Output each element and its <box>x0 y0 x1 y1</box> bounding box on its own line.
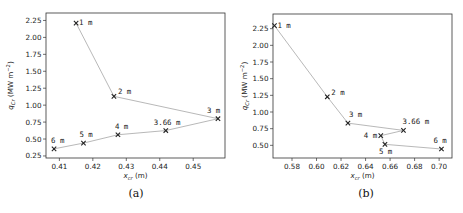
caption-b: (b) <box>358 187 374 200</box>
point-label: 2 m <box>118 87 132 96</box>
x-tick-label: 0.58 <box>284 162 300 171</box>
x-tick-label: 0.45 <box>185 162 201 171</box>
point-label: 5 m <box>79 130 93 139</box>
x-tick-label: 0.44 <box>152 162 168 171</box>
point-label: 3.66 m <box>154 118 181 127</box>
y-axis-label: qCr (MW m−2) <box>5 61 16 110</box>
point-label: 1 m <box>79 18 93 27</box>
x-axis-label: xcr (m) <box>122 171 147 181</box>
y-tick-label: 0.50 <box>252 141 268 150</box>
x-marker-icon <box>325 95 329 99</box>
x-tick-label: 0.66 <box>382 162 398 171</box>
y-tick-label: 2.25 <box>25 16 41 25</box>
y-tick-label: 0.25 <box>25 151 41 160</box>
y-tick-label: 1.25 <box>25 84 41 93</box>
caption-a: (a) <box>128 187 143 200</box>
plot-frame <box>46 13 225 158</box>
plot-frame <box>273 14 452 158</box>
y-axis-label: qCr (MW m−2) <box>239 62 250 111</box>
y-tick-label: 1.25 <box>252 91 268 100</box>
figure: 0.410.420.430.440.450.250.500.751.001.25… <box>0 0 463 213</box>
chart-panel-a: 0.410.420.430.440.450.250.500.751.001.25… <box>5 13 225 181</box>
y-tick-label: 1.75 <box>25 50 41 59</box>
point-label: 6 m <box>433 136 447 145</box>
chart-panel-b: 0.580.600.620.640.660.680.700.500.751.00… <box>239 14 452 181</box>
y-tick-label: 0.50 <box>25 135 41 144</box>
point-label: 2 m <box>331 88 345 97</box>
point-label: 1 m <box>277 21 291 30</box>
x-axis-label: xcr (m) <box>349 171 374 181</box>
point-label: 4 m <box>115 122 129 131</box>
point-label: 6 m <box>51 136 65 145</box>
y-tick-label: 2.25 <box>252 24 268 33</box>
point-label: 3 m <box>207 106 221 115</box>
y-tick-label: 0.75 <box>25 118 41 127</box>
x-tick-label: 0.42 <box>85 162 101 171</box>
data-line <box>274 26 441 149</box>
y-tick-label: 1.00 <box>252 108 268 117</box>
y-tick-label: 0.75 <box>252 124 268 133</box>
x-tick-label: 0.62 <box>333 162 349 171</box>
x-tick-label: 0.43 <box>118 162 134 171</box>
y-tick-label: 1.50 <box>25 67 41 76</box>
x-marker-icon <box>74 21 78 25</box>
point-label: 3 m <box>349 110 363 119</box>
x-tick-label: 0.68 <box>407 162 423 171</box>
x-tick-label: 0.70 <box>431 162 447 171</box>
x-tick-label: 0.41 <box>51 162 67 171</box>
x-tick-label: 0.64 <box>358 162 374 171</box>
y-tick-label: 2.00 <box>25 33 41 42</box>
y-tick-label: 1.00 <box>25 101 41 110</box>
point-label: 4 m <box>364 131 378 140</box>
point-label: 3.66 m <box>402 117 429 126</box>
point-label: 5 m <box>379 147 393 156</box>
x-tick-label: 0.60 <box>309 162 325 171</box>
y-tick-label: 1.50 <box>252 74 268 83</box>
y-tick-label: 2.00 <box>252 41 268 50</box>
y-tick-label: 1.75 <box>252 58 268 67</box>
